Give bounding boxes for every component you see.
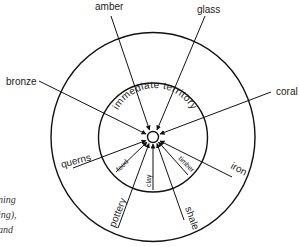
label-coral: coral [276,86,298,97]
label-pottery: pottery [107,196,129,228]
caption-fragment: t ning ing), and [0,179,17,235]
outer-zone-circle [51,33,255,242]
caption-line-4: and [0,224,14,235]
inner-zone-label-path: immediate territory [110,79,200,111]
inner-zone-label: immediate territory [110,79,200,111]
label-glass: glass [197,4,220,15]
resource-catchment-diagram: immediate territory amber glass bronze c… [0,0,299,247]
label-bronze: bronze [6,76,37,87]
label-clay: clay [145,174,153,187]
settlement-center-circle [148,132,159,143]
caption-line-3: ing), [0,209,17,221]
label-shale: shale [183,205,202,232]
caption-line-2: ning [0,194,16,205]
outer-spokes [39,16,271,228]
label-iron: iron [229,160,249,178]
label-amber: amber [95,1,124,12]
label-food: food [115,158,130,173]
